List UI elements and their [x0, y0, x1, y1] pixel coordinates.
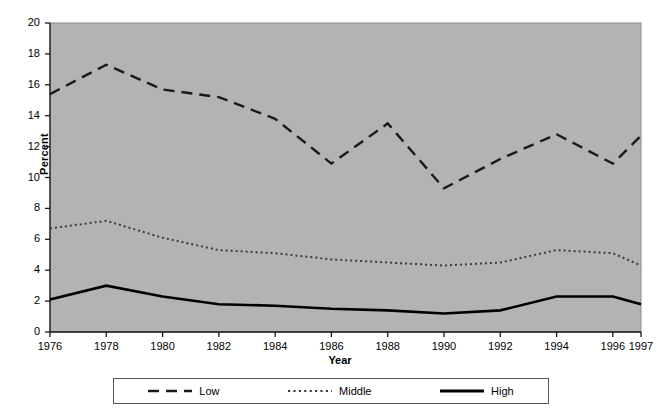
x-tick-label: 1988	[363, 341, 413, 352]
legend-swatch-middle	[288, 385, 332, 397]
y-tick-label: 6	[14, 233, 40, 244]
x-tick-label: 1980	[138, 341, 188, 352]
chart-figure: Percent 02468101214161820 19761978198019…	[0, 0, 662, 414]
y-tick-label: 18	[14, 48, 40, 59]
legend-item-high: High	[440, 385, 514, 397]
y-tick-label: 14	[14, 110, 40, 121]
legend-label-high: High	[491, 385, 514, 397]
y-tick-label: 4	[14, 264, 40, 275]
chart-legend: Low Middle High	[113, 378, 549, 404]
x-tick-label: 1982	[194, 341, 244, 352]
legend-label-middle: Middle	[339, 385, 371, 397]
x-tick-label: 1976	[25, 341, 75, 352]
x-axis-title: Year	[0, 354, 662, 366]
y-tick-label: 8	[14, 202, 40, 213]
legend-swatch-low	[148, 385, 192, 397]
legend-item-middle: Middle	[288, 385, 371, 397]
y-tick-label: 2	[14, 295, 40, 306]
legend-label-low: Low	[199, 385, 219, 397]
x-tick-label: 1992	[475, 341, 525, 352]
y-tick-label: 0	[14, 326, 40, 337]
x-tick-label: 1986	[306, 341, 356, 352]
x-tick-label: 1990	[419, 341, 469, 352]
y-tick-label: 20	[14, 17, 40, 28]
y-tick-label: 10	[14, 172, 40, 183]
plot-background	[50, 23, 641, 332]
legend-swatch-high	[440, 385, 484, 397]
legend-item-low: Low	[148, 385, 219, 397]
y-tick-label: 12	[14, 141, 40, 152]
x-tick-label: 1997	[616, 341, 662, 352]
x-tick-label: 1994	[532, 341, 582, 352]
x-tick-label: 1978	[81, 341, 131, 352]
x-tick-label: 1984	[250, 341, 300, 352]
y-tick-label: 16	[14, 79, 40, 90]
